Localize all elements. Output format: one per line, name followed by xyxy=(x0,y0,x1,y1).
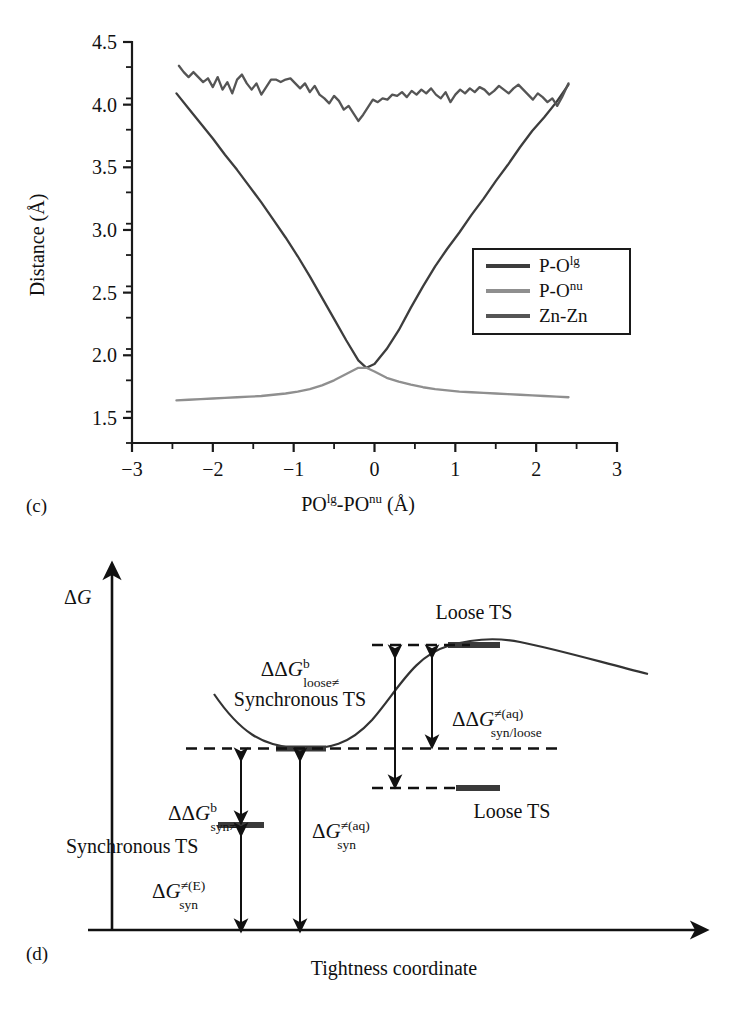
panel-d-y-axis-label: ΔG xyxy=(64,586,92,608)
panel-c-legend: P-OlgP-OnuZn-Zn xyxy=(473,249,630,334)
panel-c-x-tick-label: 3 xyxy=(612,458,622,480)
panel-c-y-tick-label: 3.0 xyxy=(92,219,117,241)
panel-d-annotation-ddg-aq-syn-loose: ΔΔG≠(aq)syn/loose xyxy=(452,706,542,740)
figure-root: 1.52.02.53.03.54.04.5−3−2−10123 P-OlgP-O… xyxy=(0,0,732,1014)
panel-c-x-tick-label: 1 xyxy=(450,458,460,480)
panel-c-y-axis-title: Distance (Å) xyxy=(26,194,49,297)
panel-d-x-axis-label: Tightness coordinate xyxy=(311,957,478,980)
panel-d-energy-diagram: ΔG Synchronous TS Loose TS Loose TS Sync… xyxy=(0,530,732,1014)
panel-c-y-tick-label: 4.0 xyxy=(92,94,117,116)
panel-c-x-tick-label: 2 xyxy=(531,458,541,480)
panel-d-annotation-dg-e-syn: ΔG≠(E)syn xyxy=(152,878,205,912)
panel-c-series-line xyxy=(176,368,568,401)
panel-d-annotation-ddg-b-syn: ΔΔGbsyn≠ xyxy=(168,800,237,834)
panel-c-svg: 1.52.02.53.03.54.04.5−3−2−10123 P-OlgP-O… xyxy=(0,0,732,530)
panel-d-tag: (d) xyxy=(26,943,48,965)
panel-d-label-loose-ts-level: Loose TS xyxy=(474,800,551,822)
panel-c-x-tick-label: −3 xyxy=(121,458,142,480)
panel-c-x-axis-title: POlg-POnu (Å) xyxy=(301,491,415,516)
panel-c-y-tick-label: 4.5 xyxy=(92,31,117,53)
panel-c-x-tick-label: −2 xyxy=(202,458,223,480)
panel-c-x-tick-label: −1 xyxy=(283,458,304,480)
panel-d-annotation-ddg-b-loose: ΔΔGbloose≠ xyxy=(261,656,339,690)
panel-d-svg: ΔG Synchronous TS Loose TS Loose TS Sync… xyxy=(0,530,732,1014)
panel-c-y-tick-label: 3.5 xyxy=(92,156,117,178)
panel-c-y-tick-label: 1.5 xyxy=(92,407,117,429)
panel-d-label-loose-ts-curve: Loose TS xyxy=(436,601,513,623)
panel-c-legend-label: Zn-Zn xyxy=(539,305,588,326)
panel-c-y-tick-label: 2.5 xyxy=(92,282,117,304)
panel-d-annotation-dg-aq-syn: ΔG≠(aq)syn xyxy=(312,818,370,852)
panel-c-tag: (c) xyxy=(26,495,47,517)
panel-c-series-line xyxy=(179,66,569,121)
panel-d-label-synchronous-ts-curve: Synchronous TS xyxy=(234,688,366,711)
panel-c-x-tick-label: 0 xyxy=(370,458,380,480)
panel-c-series-group xyxy=(176,66,568,401)
panel-c-line-chart: 1.52.02.53.03.54.04.5−3−2−10123 P-OlgP-O… xyxy=(0,0,732,530)
panel-c-y-tick-label: 2.0 xyxy=(92,344,117,366)
panel-d-label-synchronous-ts-level: Synchronous TS xyxy=(66,835,198,858)
